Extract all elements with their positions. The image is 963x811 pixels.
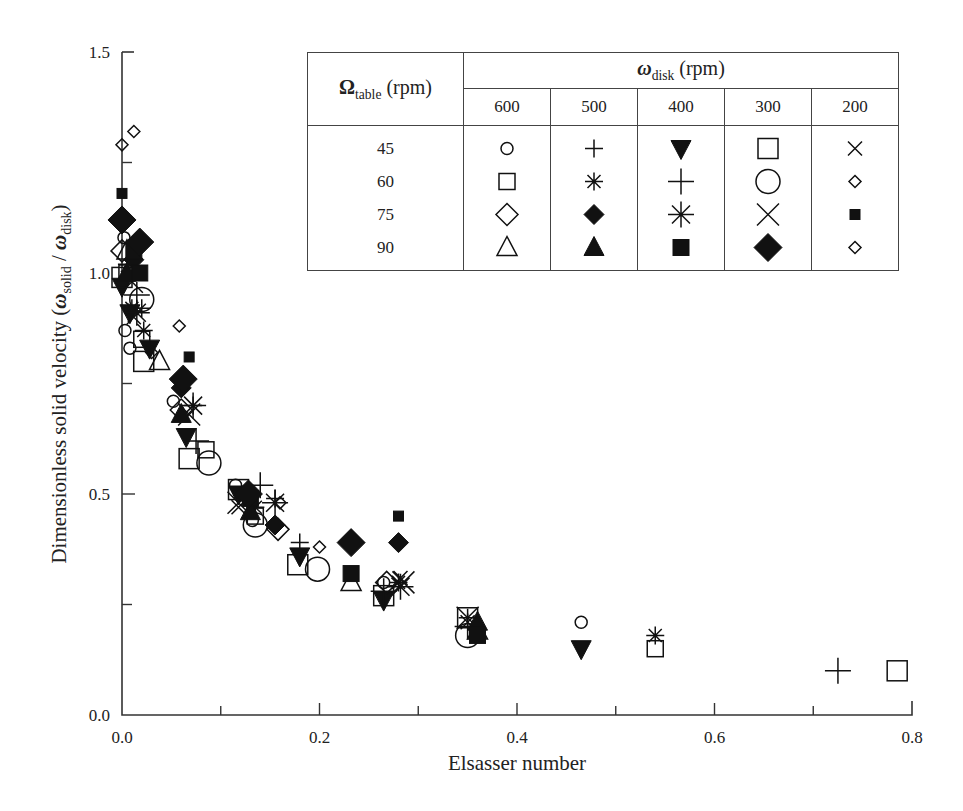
diamond-open-tiny-legend-icon [835,231,875,264]
square-open-small-marker [499,174,515,190]
x-tick-label: 0.4 [506,728,528,747]
square-filled-marker [470,627,486,643]
diamond-filled-large-marker [108,206,136,234]
square-open-large-marker [887,661,907,681]
square-filled-tiny-legend-icon [835,198,875,231]
x-large-legend-icon [748,198,788,231]
legend-row-45: 45 [308,132,463,165]
legend-col-300: 300 [725,88,812,125]
diamond-open-tiny-marker [314,541,326,553]
diamond-open-tiny-marker [128,126,140,138]
series [130,288,480,648]
triangle-up-open-legend-icon [487,231,527,264]
legend-row-90: 90 [308,231,463,264]
diamond-filled-large-marker [754,234,782,262]
x-axis-title: Elsasser number [448,751,586,775]
series [117,240,488,639]
legend-markers-300 [725,126,812,271]
diamond-open-tiny-marker [849,176,861,188]
legend-col-400: 400 [638,88,725,125]
diamond-open-tiny-marker [173,320,185,332]
diamond-filled-small-marker [584,205,604,225]
diamond-filled-large-marker [337,529,365,557]
asterisk-small-marker [646,626,664,644]
series [112,267,907,680]
square-open-large-legend-icon [748,132,788,165]
asterisk-small-legend-icon [574,165,614,198]
triangle-up-filled-marker [584,237,604,256]
legend-markers-500 [551,126,638,271]
circle-open-large-marker [756,170,780,194]
triangle-up-filled-legend-icon [574,231,614,264]
plus-small-legend-icon [574,132,614,165]
diamond-filled-small-legend-icon [574,198,614,231]
legend-column-header: ωdisk (rpm) [464,53,899,89]
circle-open-small-marker [575,616,587,628]
legend-row-60: 60 [308,165,463,198]
legend-markers-600 [464,126,551,271]
x-large-marker [757,204,779,226]
triangle-down-filled-marker [671,141,691,160]
circle-open-small-marker [167,395,179,407]
series [118,255,477,627]
x-tick-label: 0.8 [901,728,922,747]
square-filled-tiny-marker [394,511,404,521]
square-open-small-legend-icon [487,165,527,198]
asterisk-small-marker [585,173,603,191]
y-axis-title: Dimensionless solid velocity (ωsolid / ω… [47,204,74,563]
y-tick-label: 1.0 [89,264,110,283]
y-tick-label: 0.0 [89,706,110,725]
series [126,243,486,644]
circle-open-small-marker [119,324,131,336]
triangle-down-filled-marker [176,429,196,448]
asterisk-large-legend-icon [661,198,701,231]
asterisk-large-marker [262,490,288,516]
series [128,126,326,553]
legend-col-600: 600 [464,88,551,125]
plus-large-legend-icon [661,165,701,198]
diamond-open-tiny-marker [849,242,861,254]
circle-open-large-legend-icon [748,165,788,198]
legend-row-header: Ωtable (rpm) [308,53,464,126]
plus-small-marker [585,140,603,158]
legend-markers-400 [638,126,725,271]
diamond-open-small-marker [496,204,518,226]
x-tick-label: 0.0 [111,728,132,747]
diamond-open-tiny-legend-icon [835,165,875,198]
x-tick-label: 0.6 [704,728,725,747]
circle-open-small-marker [501,143,513,155]
square-filled-tiny-marker [117,188,127,198]
square-filled-marker [673,240,689,256]
asterisk-large-marker [668,202,694,228]
series [127,310,475,629]
plus-large-marker [668,169,694,195]
series [124,282,851,684]
square-filled-tiny-marker [850,210,860,220]
diamond-filled-small-marker [265,515,285,535]
legend-col-200: 200 [812,88,899,125]
square-filled-marker [343,566,359,582]
triangle-up-open-marker [497,237,517,256]
x-small-marker [848,142,862,156]
legend-col-500: 500 [551,88,638,125]
legend-markers-200 [812,126,899,271]
diamond-filled-large-legend-icon [748,231,788,264]
circle-open-large-marker [197,451,221,475]
triangle-down-filled-legend-icon [661,132,701,165]
legend-row-75: 75 [308,198,463,231]
circle-open-small-legend-icon [487,132,527,165]
y-tick-label: 1.5 [89,43,110,62]
series [124,250,409,553]
square-filled-tiny-marker [184,352,194,362]
legend-table: Ωtable (rpm) ωdisk (rpm) 600 500 400 300… [307,52,899,271]
triangle-down-filled-marker [571,641,591,660]
x-small-legend-icon [835,132,875,165]
plus-large-marker [825,658,851,684]
y-tick-label: 0.5 [89,485,110,504]
legend-row-labels: 45 60 75 90 [308,126,464,271]
square-open-large-marker [758,139,778,159]
square-filled-legend-icon [661,231,701,264]
series [124,300,414,600]
diamond-open-small-legend-icon [487,198,527,231]
circle-open-large-marker [306,557,330,581]
